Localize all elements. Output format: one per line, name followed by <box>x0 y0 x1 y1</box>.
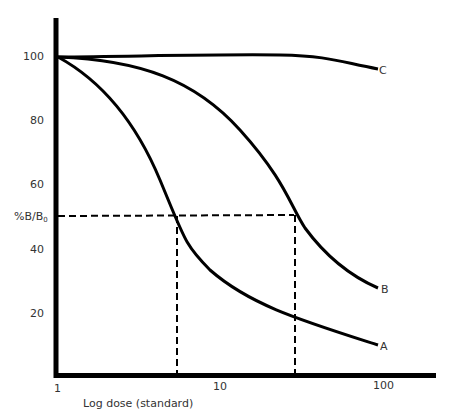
y-tick-20: 20 <box>4 308 44 319</box>
curve-label-a: A <box>380 341 388 352</box>
y-marker-label: %B/B0 <box>14 211 48 224</box>
x-tick-100: 100 <box>373 380 394 391</box>
x-axis-title: Log dose (standard) <box>83 398 193 409</box>
y-tick-40: 40 <box>4 244 44 255</box>
chart-canvas <box>0 0 453 417</box>
y-marker-main: %B/B <box>14 210 43 223</box>
curve-label-b: B <box>381 284 389 295</box>
y-tick-100: 100 <box>4 51 44 62</box>
x-tick-10: 10 <box>213 381 227 392</box>
x-tick-1: 1 <box>54 383 61 394</box>
curve-a <box>58 57 378 345</box>
curve-label-c: C <box>379 65 387 76</box>
y-marker-sub: 0 <box>43 216 47 224</box>
curve-b <box>58 57 378 288</box>
y-tick-60: 60 <box>4 179 44 190</box>
y-tick-80: 80 <box>4 115 44 126</box>
